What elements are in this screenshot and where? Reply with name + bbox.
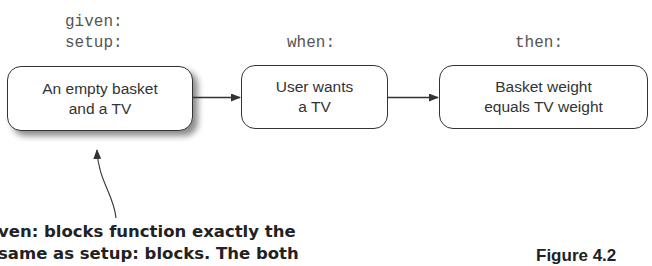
- callout-pointer-arrow: [97, 150, 116, 218]
- callout-line2: same as setup: blocks. The both: [0, 244, 299, 264]
- figure-label: Figure 4.2: [536, 246, 616, 266]
- then-box: Basket weight equals TV weight: [439, 65, 648, 129]
- when-label: when:: [287, 33, 335, 53]
- when-box-line1: User wants: [276, 77, 354, 97]
- setup-box-line1: An empty basket: [42, 79, 157, 99]
- then-box-line1: Basket weight: [484, 77, 603, 97]
- setup-label: setup:: [65, 33, 123, 53]
- then-box-line2: equals TV weight: [484, 97, 603, 117]
- setup-box: An empty basket and a TV: [7, 66, 193, 131]
- then-label: then:: [515, 33, 563, 53]
- when-box-line2: a TV: [276, 97, 354, 117]
- when-box: User wants a TV: [241, 65, 388, 129]
- given-label: given:: [65, 12, 123, 32]
- setup-box-line2: and a TV: [42, 99, 157, 119]
- callout-line1: ven: blocks function exactly the: [0, 222, 296, 242]
